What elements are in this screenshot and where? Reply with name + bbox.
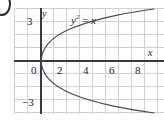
x-tick-label-0: 0 xyxy=(31,65,37,76)
equation-exponent: 2 xyxy=(76,13,80,21)
x-tick-label-6: 6 xyxy=(109,65,115,76)
y-tick-label-negative-3: −3 xyxy=(22,97,34,108)
x-tick-label-8: 8 xyxy=(135,65,141,76)
figure-parabola-y-squared-equals-x: 3 −3 y 0 2 4 6 8 x y2 = x xyxy=(0,0,164,120)
y-tick-label-3: 3 xyxy=(27,16,33,27)
figure-label-glyph xyxy=(0,0,11,16)
x-tick-label-4: 4 xyxy=(83,65,89,76)
x-tick-label-2: 2 xyxy=(57,65,63,76)
y-axis-label: y xyxy=(42,9,46,19)
equation-annotation: y2 = x xyxy=(71,14,96,26)
equation-operator: = xyxy=(82,14,88,26)
equation-right-side: x xyxy=(91,14,96,26)
x-axis-label: x xyxy=(148,48,152,58)
